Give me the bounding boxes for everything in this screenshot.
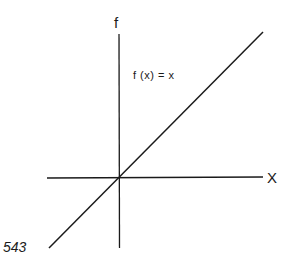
y-axis-label: f (114, 14, 119, 31)
page-number: 543 (3, 239, 27, 255)
y-axis (119, 34, 120, 248)
x-axis-label: X (267, 169, 277, 186)
function-line (49, 32, 263, 248)
identity-function-plot: f X f (x) = x 543 (0, 0, 298, 267)
function-label: f (x) = x (133, 69, 174, 81)
x-axis (47, 177, 263, 178)
